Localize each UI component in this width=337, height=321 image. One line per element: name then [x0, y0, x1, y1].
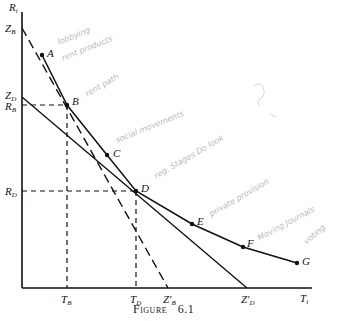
point-g-label: G: [302, 256, 310, 267]
x-tick-subscript: B: [67, 299, 71, 307]
y-axis-label: Ri: [9, 2, 18, 15]
point-e-label: E: [197, 216, 204, 227]
caption-number: 6.1: [178, 302, 195, 316]
x-tick-subscript: D: [250, 299, 255, 307]
point-a-marker: [40, 53, 44, 57]
point-f-label: F: [247, 238, 254, 249]
point-a-label: A: [47, 48, 54, 59]
figure-caption: Figure 6.1: [133, 302, 194, 317]
point-d-marker: [134, 189, 138, 193]
point-f-marker: [241, 245, 245, 249]
y-axis-letter: R: [9, 1, 16, 13]
point-e-marker: [190, 222, 194, 226]
point-c-label: C: [113, 148, 120, 159]
point-b-marker: [65, 103, 69, 107]
question-scribble: [254, 84, 276, 117]
y-tick-rd: RD: [5, 186, 17, 199]
x-axis-label: Ti: [300, 293, 308, 306]
y-axis-subscript: i: [16, 7, 18, 15]
x-tick-tb: TB: [61, 294, 71, 307]
y-tick-subscript: B: [11, 28, 15, 36]
x-axis-subscript: i: [306, 298, 308, 306]
point-c-marker: [105, 153, 109, 157]
point-g-marker: [295, 261, 299, 265]
y-tick-letter: R: [5, 100, 12, 112]
y-tick-zb: ZB: [5, 23, 15, 36]
y-tick-subscript: B: [12, 106, 16, 114]
zb-budget-line: [22, 28, 168, 288]
y-tick-rb: RB: [5, 101, 16, 114]
y-tick-subscript: D: [12, 191, 17, 199]
x-tick-zd-prime: Z′D: [241, 294, 255, 307]
point-b-label: B: [72, 96, 79, 107]
caption-word: Figure: [133, 302, 167, 316]
x-tick-letter: Z′: [241, 293, 250, 305]
y-tick-letter: R: [5, 185, 12, 197]
point-d-label: D: [141, 183, 149, 194]
